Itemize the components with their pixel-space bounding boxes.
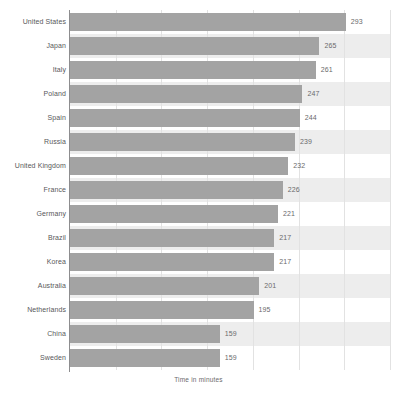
bar[interactable] — [70, 109, 300, 126]
bar[interactable] — [70, 301, 254, 318]
bar-value-label: 221 — [283, 210, 295, 217]
category-label: Australia — [0, 282, 66, 289]
bar-row[interactable]: 201 — [70, 277, 390, 294]
bar-value-label: 201 — [264, 282, 276, 289]
bar-chart: 2932652612472442392322262212172172011951… — [0, 0, 397, 393]
gridline — [390, 10, 391, 370]
bar[interactable] — [70, 229, 274, 246]
bar-value-label: 159 — [225, 354, 237, 361]
bar-value-label: 195 — [259, 306, 271, 313]
bar-row[interactable]: 221 — [70, 205, 390, 222]
bar-row[interactable]: 217 — [70, 229, 390, 246]
category-label: China — [0, 330, 66, 337]
x-axis-title: Time in minutes — [0, 376, 397, 383]
bar-row[interactable]: 195 — [70, 301, 390, 318]
bar[interactable] — [70, 133, 295, 150]
bar-row[interactable]: 244 — [70, 109, 390, 126]
bar-row[interactable]: 261 — [70, 61, 390, 78]
bar-row[interactable]: 247 — [70, 85, 390, 102]
bar-value-label: 159 — [225, 330, 237, 337]
bar-row[interactable]: 232 — [70, 157, 390, 174]
bar-value-label: 247 — [307, 90, 319, 97]
bar-value-label: 261 — [321, 66, 333, 73]
bar-value-label: 226 — [288, 186, 300, 193]
bar-row[interactable]: 293 — [70, 13, 390, 30]
bar[interactable] — [70, 349, 220, 366]
bar-value-label: 265 — [324, 42, 336, 49]
bar-value-label: 217 — [279, 258, 291, 265]
bar[interactable] — [70, 181, 283, 198]
bar-value-label: 244 — [305, 114, 317, 121]
bar-row[interactable]: 239 — [70, 133, 390, 150]
bar-row[interactable]: 265 — [70, 37, 390, 54]
bar-row[interactable]: 217 — [70, 253, 390, 270]
bar[interactable] — [70, 277, 259, 294]
bar[interactable] — [70, 325, 220, 342]
category-label: Poland — [0, 90, 66, 97]
bar-row[interactable]: 226 — [70, 181, 390, 198]
category-label: Sweden — [0, 354, 66, 361]
bar[interactable] — [70, 13, 346, 30]
bar[interactable] — [70, 157, 288, 174]
y-axis-line — [69, 10, 70, 372]
category-label: Italy — [0, 66, 66, 73]
category-label: Netherlands — [0, 306, 66, 313]
category-label: France — [0, 186, 66, 193]
category-label: Japan — [0, 42, 66, 49]
bar-value-label: 232 — [293, 162, 305, 169]
category-label-group: United StatesJapanItalyPolandSpainRussia… — [0, 10, 66, 370]
bar-row-group: 2932652612472442392322262212172172011951… — [70, 10, 390, 370]
plot-area: 2932652612472442392322262212172172011951… — [70, 10, 390, 370]
bar[interactable] — [70, 205, 278, 222]
bar[interactable] — [70, 85, 302, 102]
category-label: Spain — [0, 114, 66, 121]
bar-value-label: 239 — [300, 138, 312, 145]
bar[interactable] — [70, 37, 319, 54]
bar-value-label: 293 — [351, 18, 363, 25]
bar-value-label: 217 — [279, 234, 291, 241]
bar[interactable] — [70, 61, 316, 78]
category-label: Korea — [0, 258, 66, 265]
category-label: United Kingdom — [0, 162, 66, 169]
bar-row[interactable]: 159 — [70, 349, 390, 366]
category-label: Russia — [0, 138, 66, 145]
category-label: United States — [0, 18, 66, 25]
bar[interactable] — [70, 253, 274, 270]
category-label: Brazil — [0, 234, 66, 241]
bar-row[interactable]: 159 — [70, 325, 390, 342]
category-label: Germany — [0, 210, 66, 217]
